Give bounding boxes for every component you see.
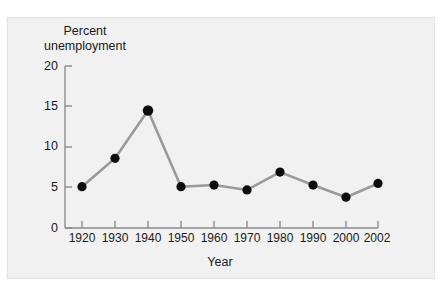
x-axis-ticks: [82, 221, 378, 228]
data-point-1960[interactable]: 1960: 5.3: [209, 180, 218, 189]
data-point-1980[interactable]: 1980: 6.9: [275, 168, 284, 177]
data-point-2002[interactable]: 2002: 5.5: [373, 179, 382, 188]
data-point-2000[interactable]: 2000: 3.8: [341, 193, 350, 202]
data-series-unemployment: 1920: 5.11930: 8.61940: 14.51950: 5.1196…: [77, 105, 382, 201]
data-point-1990[interactable]: 1990: 5.3: [308, 180, 317, 189]
chart-figure: Percentunemployment 20 15 10 5 0 1920 19…: [0, 0, 443, 296]
y-axis-ticks: [65, 66, 72, 228]
data-point-1940[interactable]: 1940: 14.5: [143, 105, 153, 115]
chart-plot-area: 1920: 5.11930: 8.61940: 14.51950: 5.1196…: [0, 0, 443, 296]
data-point-1970[interactable]: 1970: 4.7: [242, 185, 251, 194]
data-point-1920[interactable]: 1920: 5.1: [77, 182, 86, 191]
data-point-1930[interactable]: 1930: 8.6: [110, 154, 119, 163]
series-line: [82, 111, 378, 198]
data-point-1950[interactable]: 1950: 5.1: [176, 182, 185, 191]
